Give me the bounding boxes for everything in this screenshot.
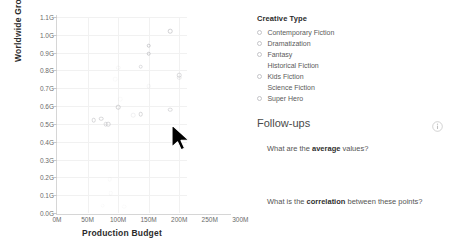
y-tick-mark <box>54 177 57 178</box>
y-tick-label: 0.7G <box>26 85 54 92</box>
y-tick-label: 0.1G <box>26 192 54 199</box>
data-points-layer <box>57 17 187 213</box>
legend-item[interactable]: Super Hero <box>257 93 387 104</box>
legend-marker-icon <box>257 63 262 68</box>
data-point[interactable] <box>99 116 104 121</box>
y-tick-label: 0.6G <box>26 103 54 110</box>
legend-item[interactable]: Dramatization <box>257 38 387 49</box>
legend-item[interactable]: Historical Fiction <box>257 60 387 71</box>
x-tick-label: 250M <box>202 216 218 223</box>
legend-item[interactable]: Science Fiction <box>257 82 387 93</box>
followup-keyword: correlation <box>307 197 346 206</box>
legend-marker-icon <box>257 85 262 90</box>
x-tick-label: 100M <box>110 216 126 223</box>
legend-item-label: Dramatization <box>267 40 310 47</box>
data-point[interactable] <box>138 112 143 117</box>
legend-item-label: Science Fiction <box>267 84 314 91</box>
y-axis-ticks: 0.0G0.1G0.2G0.3G0.4G0.5G0.6G0.7G0.8G0.9G… <box>24 17 54 213</box>
legend-marker-icon <box>257 52 262 57</box>
x-tick-label: 150M <box>141 216 157 223</box>
legend-marker-icon <box>257 30 262 35</box>
legend-marker-icon <box>257 74 262 79</box>
followup-question-1[interactable]: What are the average values? <box>267 144 427 155</box>
info-icon[interactable] <box>432 118 443 129</box>
data-point[interactable] <box>118 97 123 102</box>
y-tick-mark <box>54 195 57 196</box>
followup-keyword: average <box>312 144 340 153</box>
data-point[interactable] <box>146 84 151 89</box>
data-point[interactable] <box>101 204 106 209</box>
data-point[interactable] <box>91 118 96 123</box>
legend-item-label: Kids Fiction <box>267 73 303 80</box>
legend-item-label: Historical Fiction <box>267 62 318 69</box>
legend-title: Creative Type <box>257 14 387 23</box>
followups-title: Follow-ups <box>257 117 310 129</box>
y-tick-mark <box>54 35 57 36</box>
data-point[interactable] <box>108 191 113 196</box>
scatter-chart-panel: Worldwide Gross 0.0G0.1G0.2G0.3G0.4G0.5G… <box>0 0 245 246</box>
followup-question-2[interactable]: What is the correlation between these po… <box>267 197 427 208</box>
data-point[interactable] <box>146 43 151 48</box>
y-tick-label: 1.0G <box>26 31 54 38</box>
data-point[interactable] <box>122 204 127 209</box>
legend-item[interactable]: Contemporary Fiction <box>257 27 387 38</box>
legend-item-label: Super Hero <box>267 95 303 102</box>
legend-marker-icon <box>257 41 262 46</box>
y-tick-label: 0.4G <box>26 138 54 145</box>
legend-item[interactable]: Fantasy <box>257 49 387 60</box>
data-point[interactable] <box>107 177 112 182</box>
y-tick-label: 0.9G <box>26 49 54 56</box>
y-tick-mark <box>54 17 57 18</box>
y-tick-label: 0.2G <box>26 174 54 181</box>
y-tick-mark <box>54 88 57 89</box>
y-tick-label: 0.8G <box>26 67 54 74</box>
data-point[interactable] <box>116 105 121 110</box>
right-panel: Creative Type Contemporary FictionDramat… <box>245 0 451 246</box>
legend: Creative Type Contemporary FictionDramat… <box>257 14 387 104</box>
data-point[interactable] <box>168 107 173 112</box>
y-tick-label: 0.3G <box>26 156 54 163</box>
y-tick-mark <box>54 53 57 54</box>
legend-item-label: Contemporary Fiction <box>267 29 334 36</box>
plot-area[interactable] <box>57 17 187 213</box>
followups-header: Follow-ups <box>257 114 443 132</box>
y-tick-label: 1.1G <box>26 14 54 21</box>
x-tick-label: 0M <box>52 216 61 223</box>
legend-marker-icon <box>257 96 262 101</box>
legend-item[interactable]: Kids Fiction <box>257 71 387 82</box>
x-tick-label: 50M <box>81 216 94 223</box>
y-tick-mark <box>54 213 57 214</box>
data-point[interactable] <box>113 77 118 82</box>
mouse-pointer-icon <box>170 124 192 152</box>
followups-section: Follow-ups What are the average values? … <box>257 114 443 132</box>
data-point[interactable] <box>146 51 151 56</box>
data-point[interactable] <box>168 29 173 34</box>
y-tick-mark <box>54 106 57 107</box>
x-tick-label: 200M <box>171 216 187 223</box>
legend-items: Contemporary FictionDramatizationFantasy… <box>257 27 387 104</box>
data-point[interactable] <box>177 75 182 80</box>
x-axis-line <box>56 214 231 215</box>
y-tick-mark <box>54 70 57 71</box>
y-axis-title: Worldwide Gross <box>13 0 23 62</box>
y-tick-label: 0.5G <box>26 120 54 127</box>
data-point[interactable] <box>106 122 111 127</box>
x-axis-ticks: 0M50M100M150M200M250M300M <box>0 216 245 228</box>
legend-item-label: Fantasy <box>267 51 292 58</box>
data-point[interactable] <box>116 65 121 70</box>
data-point[interactable] <box>131 113 136 118</box>
app-root: Worldwide Gross 0.0G0.1G0.2G0.3G0.4G0.5G… <box>0 0 451 246</box>
y-tick-mark <box>54 160 57 161</box>
y-tick-mark <box>54 124 57 125</box>
x-axis-title: Production Budget <box>57 228 187 238</box>
data-point[interactable] <box>138 65 143 70</box>
y-tick-mark <box>54 142 57 143</box>
